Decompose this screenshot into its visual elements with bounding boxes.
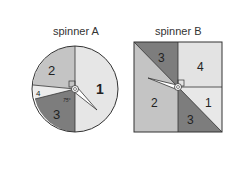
- spinner-a-label-3: 3: [53, 107, 60, 122]
- spinner-a: 1 2 3 4 75°: [32, 46, 118, 132]
- spinner-a-angle-label: 75°: [63, 97, 71, 103]
- spinner-a-label-2: 2: [48, 63, 55, 78]
- spinner-b-label-4: 4: [197, 60, 204, 74]
- spinner-b-label-1: 1: [205, 96, 212, 110]
- spinner-a-label-1: 1: [96, 81, 104, 97]
- spinner-a-label-4: 4: [36, 89, 41, 98]
- spinners-diagram: 1 2 3 4 75° 3 4 2 1 3: [0, 0, 246, 172]
- spinner-b-label-3-bottom: 3: [187, 113, 194, 127]
- spinner-b-label-3-top: 3: [158, 51, 165, 65]
- spinner-b-label-2: 2: [151, 96, 158, 110]
- spinner-b: 3 4 2 1 3: [134, 42, 222, 132]
